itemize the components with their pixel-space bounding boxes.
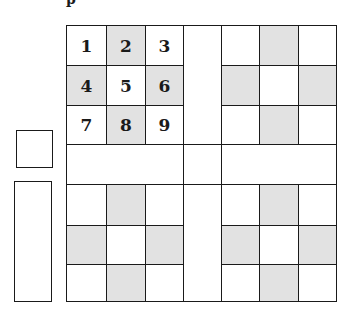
block-tr-cell xyxy=(259,65,299,106)
band-column-top xyxy=(183,25,222,145)
block-bl-cell xyxy=(66,184,107,226)
block-tr-cell xyxy=(259,25,299,66)
small-square-box xyxy=(16,130,53,168)
cell-8: 8 xyxy=(106,105,146,145)
block-bl-cell xyxy=(145,184,184,226)
block-tr-cell xyxy=(298,25,337,66)
band-column-bottom xyxy=(183,184,222,302)
top-text-fragment: p xyxy=(66,0,76,7)
grid-diagram: 1 2 3 4 5 6 7 8 9 xyxy=(66,25,337,302)
block-bl-cell xyxy=(66,225,107,265)
block-tr-cell xyxy=(221,65,260,106)
block-br-cell xyxy=(298,264,337,302)
cell-9: 9 xyxy=(145,105,184,145)
block-tr-cell xyxy=(298,105,337,145)
cell-5: 5 xyxy=(106,65,146,106)
cell-2: 2 xyxy=(106,25,146,66)
tall-rectangle-box xyxy=(14,181,52,302)
block-tr-cell xyxy=(298,65,337,106)
block-bl-cell xyxy=(145,264,184,302)
block-br-cell xyxy=(221,225,260,265)
band-row-right xyxy=(221,144,337,185)
band-row-left xyxy=(66,144,184,185)
cell-4: 4 xyxy=(66,65,107,106)
block-br-cell xyxy=(298,184,337,226)
block-tr-cell xyxy=(259,105,299,145)
block-tr-cell xyxy=(221,25,260,66)
block-bl-cell xyxy=(66,264,107,302)
block-bl-cell xyxy=(106,184,146,226)
cell-6: 6 xyxy=(145,65,184,106)
cell-7: 7 xyxy=(66,105,107,145)
block-bl-cell xyxy=(106,264,146,302)
band-intersection xyxy=(183,144,222,185)
block-br-cell xyxy=(221,264,260,302)
block-tr-cell xyxy=(221,105,260,145)
block-br-cell xyxy=(221,184,260,226)
block-br-cell xyxy=(259,264,299,302)
cell-3: 3 xyxy=(145,25,184,66)
block-br-cell xyxy=(259,225,299,265)
cell-1: 1 xyxy=(66,25,107,66)
block-br-cell xyxy=(259,184,299,226)
block-bl-cell xyxy=(106,225,146,265)
block-br-cell xyxy=(298,225,337,265)
block-bl-cell xyxy=(145,225,184,265)
